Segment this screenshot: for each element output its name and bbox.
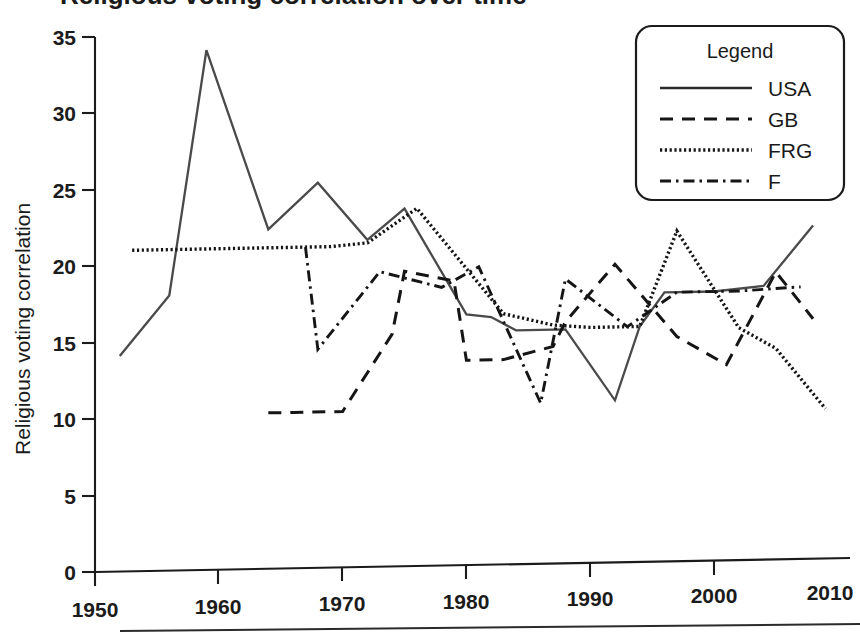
x-tick-label-1970: 1970 xyxy=(319,592,366,615)
y-tick-label-10: 10 xyxy=(53,408,76,431)
y-tick-label-5: 5 xyxy=(64,485,76,508)
x-tick-label-2000: 2000 xyxy=(691,584,738,607)
y-tick-label-25: 25 xyxy=(53,179,77,202)
x-tick-group xyxy=(95,561,714,586)
legend-label-frg: FRG xyxy=(768,139,812,162)
line-chart-svg: Religious voting correlation 35 30 25 20… xyxy=(0,0,860,633)
y-tick-label-0: 0 xyxy=(64,561,76,584)
legend-title: Legend xyxy=(707,40,774,62)
x-tick-label-1990: 1990 xyxy=(567,587,614,610)
y-tick-label-35: 35 xyxy=(53,26,77,49)
x-tick-label-1950: 1950 xyxy=(72,598,119,621)
y-tick-label-30: 30 xyxy=(53,102,76,125)
x-axis: 1950 1960 1970 1980 1990 2000 2010 xyxy=(72,558,854,621)
y-tick-label-15: 15 xyxy=(53,332,77,355)
x-tick-label-2010: 2010 xyxy=(807,581,854,604)
series-line-gb xyxy=(268,264,813,413)
legend-label-f: F xyxy=(768,170,781,193)
legend[interactable]: Legend USA GB FRG F xyxy=(636,26,844,200)
y-tick-group xyxy=(82,37,95,572)
y-axis-label: Religious voting correlation xyxy=(11,203,34,455)
x-tick-label-1960: 1960 xyxy=(195,595,242,618)
page-title-text: Religious voting correlation over time xyxy=(60,0,527,9)
page-title-clipped: Religious voting correlation over time xyxy=(0,0,860,9)
legend-label-gb: GB xyxy=(768,108,798,131)
series-line-f xyxy=(305,247,800,403)
y-axis: 35 30 25 20 15 10 5 0 xyxy=(53,26,95,584)
y-tick-label-20: 20 xyxy=(53,255,76,278)
chart-figure: Religious voting correlation over time R… xyxy=(0,0,860,633)
legend-label-usa: USA xyxy=(768,77,811,100)
x-tick-label-1980: 1980 xyxy=(443,590,490,613)
x-axis-line xyxy=(95,558,850,572)
page-bottom-rule xyxy=(120,624,860,631)
series-line-frg xyxy=(132,208,825,408)
